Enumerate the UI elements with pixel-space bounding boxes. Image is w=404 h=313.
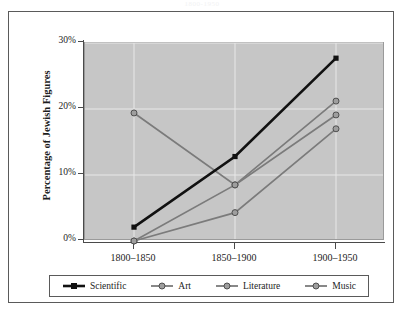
data-point-literature [232,182,238,188]
legend-marker-literature [215,277,239,295]
data-point-music [232,210,238,216]
legend-marker-music [304,277,328,295]
legend-label: Music [332,281,356,291]
legend-label: Art [178,281,191,291]
legend-item-music[interactable]: Music [304,277,356,295]
legend-item-literature[interactable]: Literature [215,277,280,295]
data-point-scientific [232,154,237,159]
data-point-art [333,112,339,118]
x-tick-mark [234,243,235,249]
legend-marker-art [150,277,174,295]
plot-area [84,42,384,240]
legend-label: Literature [243,281,280,291]
data-point-literature [333,98,339,104]
x-tick-label: 1900–1950 [290,252,380,263]
legend-item-scientific[interactable]: Scientific [62,277,126,295]
x-tick-label: 1850–1900 [189,252,279,263]
series-canvas [85,43,383,239]
data-point-scientific [131,225,136,230]
legend-item-art[interactable]: Art [150,277,191,295]
y-tick-label: 0% [42,233,76,243]
x-tick-mark [335,243,336,249]
chart-page: 1800-1950 Percentage of Jewish Figures 0… [0,0,404,313]
y-tick-label: 10% [42,167,76,177]
cropped-header-text: 1800-1950 [0,0,404,9]
chart-card: Percentage of Jewish Figures 0%10%20%30%… [8,11,394,303]
x-tick-label: 1800–1850 [88,252,178,263]
data-point-scientific [333,56,338,61]
y-tick-label: 20% [42,101,76,111]
data-point-music [333,126,339,132]
data-point-art [131,110,137,116]
y-axis-title: Percentage of Jewish Figures [41,51,52,221]
data-point-music [131,238,137,244]
y-tick-label: 30% [42,35,76,45]
legend-label: Scientific [90,281,126,291]
legend: ScientificArtLiteratureMusic [49,275,369,297]
legend-marker-scientific [62,277,86,295]
